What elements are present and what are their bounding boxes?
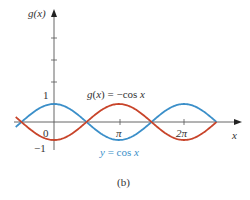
y-axis-label: g(x) [28, 7, 46, 20]
x-axis-label: x [231, 129, 237, 141]
cosine-reflection-chart: g(x) x 0 π 2π 1 −1 g(x) = −cos x y = cos… [0, 0, 250, 200]
tick-label-pi: π [116, 127, 122, 139]
cos-annotation: y = cos x [99, 146, 139, 158]
x-axis-arrow-icon [234, 119, 242, 125]
y-axis-arrow-icon [51, 9, 57, 17]
neg-cos-annotation: g(x) = −cos x [87, 88, 145, 101]
tick-label-neg1: −1 [34, 142, 46, 154]
tick-label-1: 1 [43, 89, 49, 101]
tick-label-2pi: 2π [176, 127, 188, 139]
figure-caption: (b) [117, 176, 130, 189]
tick-label-0: 0 [43, 127, 49, 139]
